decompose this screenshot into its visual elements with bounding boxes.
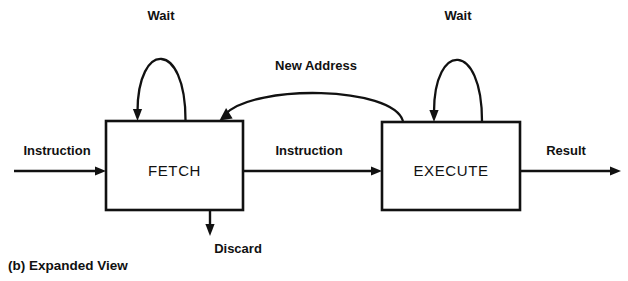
fetch-wait-loop — [138, 59, 186, 120]
new-address-arc — [226, 93, 404, 121]
fetch-to-execute-arrowhead — [371, 166, 382, 175]
execute-wait-label: Wait — [445, 8, 473, 23]
instruction-cycle-diagram: FETCH EXECUTE Instruction Wait Instructi… — [0, 0, 628, 281]
fetch-wait-arrowhead — [133, 109, 142, 121]
result-label: Result — [546, 143, 586, 158]
new-address-label: New Address — [275, 58, 357, 73]
execute-stage-label: EXECUTE — [413, 162, 488, 179]
input-instruction-label: Instruction — [23, 143, 90, 158]
fetch-stage-label: FETCH — [148, 162, 201, 179]
execute-wait-loop — [434, 60, 482, 121]
figure-caption: (b) Expanded View — [8, 258, 128, 273]
expanded-view-figure: FETCH EXECUTE Instruction Wait Instructi… — [0, 0, 628, 281]
fetch-wait-label: Wait — [148, 8, 176, 23]
input-instruction-arrowhead — [95, 166, 106, 175]
result-arrowhead — [610, 166, 621, 175]
discard-label: Discard — [214, 241, 262, 256]
fetch-to-execute-label: Instruction — [275, 143, 342, 158]
execute-wait-arrowhead — [429, 110, 438, 122]
discard-arrowhead — [205, 224, 214, 236]
